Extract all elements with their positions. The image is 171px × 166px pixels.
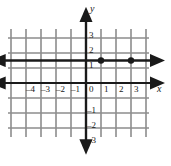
x-axis-label: x: [157, 84, 161, 94]
y-tick-label-neg1: –1: [87, 106, 96, 115]
y-axis-label: y: [90, 4, 94, 14]
origin-label: 0: [89, 85, 94, 94]
y-tick-label-1: 1: [89, 61, 94, 70]
x-tick-label-2: 2: [119, 85, 124, 94]
data-point: [128, 57, 134, 63]
coordinate-plane-figure: –4 –3 –2 –1 0 1 2 3 3 2 1 –1 –2 –3 y x: [0, 0, 171, 166]
y-tick-label-neg3: –3: [87, 136, 96, 145]
data-point: [98, 57, 104, 63]
x-tick-label-1: 1: [104, 85, 109, 94]
x-tick-label-neg2: –2: [56, 85, 65, 94]
y-tick-label-neg2: –2: [87, 121, 96, 130]
x-tick-label-neg1: –1: [71, 85, 80, 94]
y-tick-label-2: 2: [89, 46, 94, 55]
x-tick-label-neg4: –4: [26, 85, 35, 94]
x-tick-label-3: 3: [134, 85, 139, 94]
graph-canvas: [0, 0, 171, 166]
x-tick-label-neg3: –3: [41, 85, 50, 94]
y-tick-label-3: 3: [89, 31, 94, 40]
